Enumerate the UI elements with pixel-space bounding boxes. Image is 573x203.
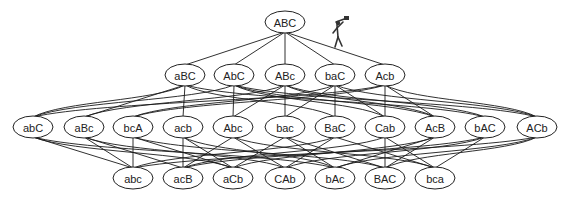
node-bAc: bAc [315, 167, 355, 189]
stick-figure-icon [333, 16, 349, 47]
node-label: ABc [275, 70, 296, 82]
node-label: Acb [376, 70, 395, 82]
node-label: CAb [274, 173, 295, 185]
node-label: abC [23, 122, 43, 134]
edge-aBC-abC [33, 85, 185, 117]
node-bca: bca [415, 167, 455, 189]
node-label: bAC [474, 122, 495, 134]
node-label: aBc [75, 122, 94, 134]
node-AcB: AcB [415, 116, 455, 138]
node-abC: abC [13, 116, 53, 138]
diagram-canvas: ABCaBCAbCABcbaCAcbabCaBcbcAacbAbcbacBaCC… [0, 0, 573, 203]
node-bcA: bcA [113, 116, 153, 138]
node-label: abc [124, 173, 142, 185]
node-abc: abc [113, 167, 153, 189]
node-label: acB [174, 173, 193, 185]
node-label: bAc [326, 173, 345, 185]
node-aCb: aCb [213, 167, 253, 189]
node-Cab: Cab [365, 116, 405, 138]
edge-Acb-AcB [385, 85, 435, 117]
node-label: BAC [374, 173, 397, 185]
node-aBc: aBc [64, 116, 104, 138]
edge-baC-Cab [335, 85, 385, 117]
node-AbC: AbC [214, 64, 254, 86]
node-bAC: bAC [465, 116, 505, 138]
node-label: BaC [324, 122, 345, 134]
edge-aBc-abc [84, 137, 133, 168]
node-BAC: BAC [365, 167, 405, 189]
node-label: ACb [526, 122, 547, 134]
edge-ABC-Acb [285, 32, 385, 65]
node-label: bcA [124, 122, 144, 134]
node-label: ABC [274, 17, 297, 29]
node-label: baC [325, 70, 345, 82]
node-label: bac [276, 122, 294, 134]
node-baC: baC [315, 64, 355, 86]
node-Acb: Acb [365, 64, 405, 86]
lattice-diagram: ABCaBCAbCABcbaCAcbabCaBcbcAacbAbcbacBaCC… [0, 0, 573, 203]
node-acb: acb [163, 116, 203, 138]
node-label: AbC [223, 70, 244, 82]
node-label: acb [174, 122, 192, 134]
node-Abc: Abc [213, 116, 253, 138]
node-ABc: ABc [265, 64, 305, 86]
node-CAb: CAb [265, 167, 305, 189]
edge-layer [33, 32, 537, 168]
edge-Cab-acB [183, 137, 385, 168]
node-label: Abc [224, 122, 243, 134]
node-ACb: ACb [517, 116, 557, 138]
node-label: AcB [425, 122, 445, 134]
node-label: Cab [375, 122, 395, 134]
edge-ACb-abc [133, 137, 537, 168]
edge-baC-bac [285, 85, 335, 117]
node-BaC: BaC [315, 116, 355, 138]
node-ABC: ABC [265, 11, 305, 33]
node-label: aCb [223, 173, 243, 185]
node-label: aBC [174, 70, 195, 82]
edge-ABC-baC [285, 32, 335, 65]
edge-ABC-AbC [234, 32, 285, 65]
node-acB: acB [163, 167, 203, 189]
edge-ABC-aBC [185, 32, 285, 65]
node-bac: bac [265, 116, 305, 138]
node-label: bca [426, 173, 445, 185]
node-aBC: aBC [165, 64, 205, 86]
